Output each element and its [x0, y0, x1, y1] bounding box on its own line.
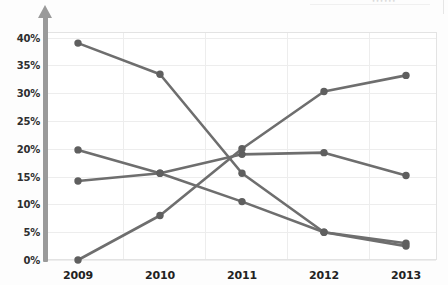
- series-data-point: [402, 240, 409, 247]
- series-data-point: [402, 72, 409, 79]
- series-data-point: [156, 212, 163, 219]
- series-data-point: [320, 149, 327, 156]
- series-data-point: [320, 88, 327, 95]
- line-chart: •••••• 0%5%10%15%20%25%30%35%40% 2009201…: [0, 0, 448, 285]
- series-layer: [0, 0, 448, 285]
- series-data-point: [238, 145, 245, 152]
- series-data-point: [320, 229, 327, 236]
- series-data-point: [238, 170, 245, 177]
- series-data-point: [74, 177, 81, 184]
- series-line: [78, 75, 406, 260]
- series-data-point: [74, 39, 81, 46]
- series-data-point: [156, 71, 163, 78]
- series-data-point: [74, 256, 81, 263]
- series-line: [78, 43, 406, 246]
- series-data-point: [74, 146, 81, 153]
- series-data-point: [156, 170, 163, 177]
- series-data-point: [238, 198, 245, 205]
- series-data-point: [402, 172, 409, 179]
